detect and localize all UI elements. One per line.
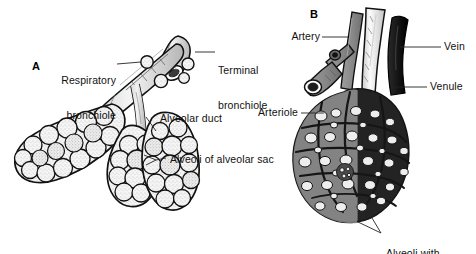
label-alveoli-capillary-line1: Alveoli with [386, 248, 476, 254]
label-alveoli-with-capillary-networks: Alveoli with capillary networks [386, 225, 476, 254]
anatomy-figure: A Respiratory bronchiole Terminal bronch… [0, 0, 476, 254]
label-respiratory-bronchiole-line2: bronchiole [34, 110, 116, 122]
label-vein: Vein [444, 41, 465, 53]
label-terminal-bronchiole: Terminal bronchiole [218, 42, 278, 134]
label-alveolar-duct: Alveolar duct [160, 113, 222, 125]
artery-cut-end [330, 50, 341, 60]
label-respiratory-bronchiole: Respiratory bronchiole [34, 52, 116, 144]
label-arteriole: Arteriole [246, 107, 298, 119]
label-alveoli-of-alveolar-sac: Alveoli of alveolar sac [170, 154, 274, 166]
alveolus-cut-detail [337, 164, 354, 181]
label-artery: Artery [276, 31, 320, 43]
label-terminal-bronchiole-line1: Terminal [218, 65, 278, 77]
panel-b-letter: B [310, 8, 318, 20]
label-venule: Venule [430, 81, 463, 93]
label-respiratory-bronchiole-line1: Respiratory [34, 75, 116, 87]
